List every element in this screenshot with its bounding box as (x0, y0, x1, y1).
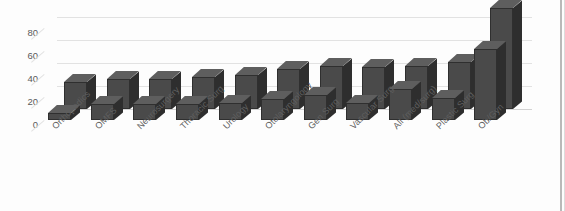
x-axis-category-labels: OrthopedicsOMFSNeurosurgeryThoracic Surg… (0, 120, 565, 211)
y-axis: 80 60 40 20 0 (4, 0, 38, 130)
gridline (57, 17, 532, 18)
chart-container: 80 60 40 20 0 OrthopedicsOMFSNeurosurger… (0, 0, 565, 211)
bar-side (513, 1, 522, 109)
gridline (57, 40, 532, 41)
